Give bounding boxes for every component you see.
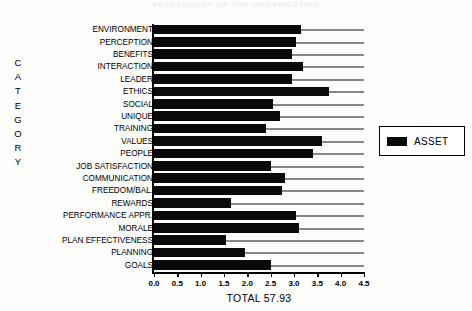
bar-row (154, 86, 364, 98)
category-axis-letter-3: E (10, 99, 26, 113)
bar-row (154, 24, 364, 36)
bar (154, 198, 231, 208)
x-tick-mark (294, 272, 295, 277)
x-tick-mark (364, 272, 365, 277)
bar (154, 99, 273, 109)
bar (154, 74, 292, 84)
x-tick-mark (317, 272, 318, 277)
x-tick-label: 1.0 (189, 279, 213, 289)
x-tick-label: 1.5 (212, 279, 236, 289)
x-tick-mark (177, 272, 178, 277)
total-caption: TOTAL 57.93 (154, 292, 364, 304)
x-tick-label: 0.5 (165, 279, 189, 289)
x-tick-label: 3.5 (305, 279, 329, 289)
x-tick-mark (201, 272, 202, 277)
x-tick-mark (247, 272, 248, 277)
legend-swatch-asset (387, 137, 407, 146)
category-tick-label: JOB SATISFACTION (36, 163, 153, 171)
category-tick-label: PLANNING (36, 249, 153, 257)
bar-chart: ASSESSMENT OF THE ORGANIZATION CATEGORY … (0, 0, 472, 311)
category-axis-letter-5: O (10, 127, 26, 141)
category-tick-label: PERCEPTION (36, 39, 153, 47)
category-tick-label: VALUES (36, 138, 153, 146)
bar-row (154, 74, 364, 86)
category-tick-label: COMMUNICATION (36, 175, 153, 183)
category-tick-label: ENVIRONMENT (36, 26, 153, 34)
category-tick-label: UNIQUE (36, 113, 153, 121)
category-axis-letter-0: C (10, 56, 26, 70)
bar-row (154, 98, 364, 110)
chart-title: ASSESSMENT OF THE ORGANIZATION (0, 0, 472, 9)
bar (154, 111, 280, 121)
bar-row (154, 36, 364, 48)
bar-row (154, 49, 364, 61)
bar (154, 211, 296, 221)
x-tick-label: 3.0 (282, 279, 306, 289)
x-tick-mark (271, 272, 272, 277)
bar-row (154, 185, 364, 197)
category-tick-label: REWARDS (36, 200, 153, 208)
category-axis-letter-6: R (10, 141, 26, 155)
bar (154, 136, 322, 146)
legend-label-asset: ASSET (414, 136, 448, 147)
bar-row (154, 136, 364, 148)
category-tick-label: PLAN EFFECTIVENESS (36, 237, 153, 245)
bar-row (154, 111, 364, 123)
bar (154, 248, 245, 258)
bar-row (154, 260, 364, 272)
bar (154, 260, 271, 270)
category-tick-label: TRAINING (36, 125, 153, 133)
x-tick-label: 0.0 (142, 279, 166, 289)
bar-row (154, 247, 364, 259)
bar (154, 87, 329, 97)
bar-row (154, 198, 364, 210)
bar (154, 235, 226, 245)
category-axis-letter-7: Y (10, 155, 26, 169)
x-axis-tick-marks (154, 272, 366, 278)
x-tick-label: 2.5 (259, 279, 283, 289)
category-tick-label: MORALE (36, 225, 153, 233)
category-tick-label: PERFORMANCE APPR. (36, 212, 153, 220)
category-tick-label: INTERACTION (36, 63, 153, 71)
category-tick-label: LEADER (36, 76, 153, 84)
x-tick-mark (224, 272, 225, 277)
bar (154, 173, 285, 183)
category-axis-title: CATEGORY (10, 56, 26, 170)
bar (154, 25, 301, 35)
bar (154, 49, 292, 59)
bar-row (154, 123, 364, 135)
bar-row (154, 160, 364, 172)
x-tick-label: 2.0 (235, 279, 259, 289)
x-tick-label: 4.0 (329, 279, 353, 289)
x-axis-tick-labels: 0.00.51.01.52.02.53.03.54.04.5 (140, 279, 380, 291)
bar-row (154, 173, 364, 185)
category-tick-label: SOCIAL (36, 101, 153, 109)
bar-row (154, 61, 364, 73)
bar (154, 62, 303, 72)
bar-row (154, 210, 364, 222)
category-tick-label: GOALS (36, 262, 153, 270)
category-tick-label: ETHICS (36, 88, 153, 96)
category-axis-letter-4: G (10, 113, 26, 127)
x-tick-label: 4.5 (352, 279, 376, 289)
bar (154, 37, 296, 47)
category-tick-label: PEOPLE (36, 150, 153, 158)
category-axis-letter-1: A (10, 70, 26, 84)
bar (154, 186, 282, 196)
legend: ASSET (379, 126, 465, 156)
category-axis-letter-2: T (10, 84, 26, 98)
x-tick-mark (154, 272, 155, 277)
x-tick-mark (341, 272, 342, 277)
bar-row (154, 148, 364, 160)
bar-row (154, 235, 364, 247)
category-tick-label: FREEDOM/BAL. (36, 187, 153, 195)
bar (154, 161, 271, 171)
plot-area (154, 24, 364, 272)
bar (154, 149, 313, 159)
bar (154, 223, 299, 233)
bar-row (154, 222, 364, 234)
bar (154, 124, 266, 134)
category-tick-label: BENEFITS (36, 51, 153, 59)
category-tick-labels: ENVIRONMENTPERCEPTIONBENEFITSINTERACTION… (36, 24, 153, 272)
